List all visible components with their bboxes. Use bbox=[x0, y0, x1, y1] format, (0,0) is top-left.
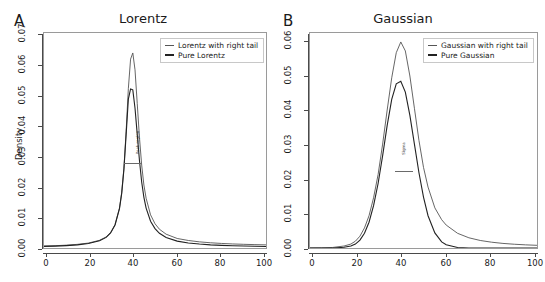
y-tick-a-6 bbox=[38, 65, 42, 66]
x-tick-label-a-1: 20 bbox=[78, 258, 102, 268]
y-tick-b-3 bbox=[304, 145, 308, 146]
peak-annotation-a: Peak region bbox=[135, 131, 140, 154]
y-tick-a-4 bbox=[38, 126, 42, 127]
y-tick-label-b-4: 0.04 bbox=[283, 96, 293, 122]
y-tick-a-0 bbox=[38, 249, 42, 250]
panel-gaussian: B Gaussian 0.00 0.01 0.02 0.03 0.04 0.05… bbox=[273, 0, 545, 282]
legend-line-icon bbox=[428, 45, 437, 46]
curve-gaussian-with-right-tail bbox=[310, 42, 537, 248]
annotation-rule-b bbox=[395, 171, 413, 172]
y-tick-a-5 bbox=[38, 96, 42, 97]
y-tick-label-b-5: 0.05 bbox=[283, 62, 293, 88]
lorentz-curves-svg bbox=[44, 33, 266, 248]
x-axis-line-b bbox=[309, 253, 538, 254]
x-axis-line-a bbox=[43, 253, 267, 254]
y-tick-label-a-3: 0.03 bbox=[17, 143, 27, 169]
legend-label: Pure Lorentz bbox=[178, 52, 225, 60]
legend-label: Lorentz with right tail bbox=[178, 42, 258, 50]
x-tick-b-4 bbox=[490, 253, 491, 257]
x-tick-a-1 bbox=[90, 253, 91, 257]
y-tick-label-b-0: 0.00 bbox=[283, 235, 293, 261]
y-tick-a-3 bbox=[38, 157, 42, 158]
x-tick-label-a-0: 0 bbox=[34, 258, 58, 268]
y-tick-b-5 bbox=[304, 76, 308, 77]
x-tick-a-0 bbox=[46, 253, 47, 257]
legend-item-pure-lorentz: Pure Lorentz bbox=[165, 52, 258, 60]
x-tick-a-5 bbox=[264, 253, 265, 257]
x-tick-a-4 bbox=[220, 253, 221, 257]
y-tick-label-a-4: 0.04 bbox=[17, 112, 27, 138]
x-tick-label-b-0: 0 bbox=[300, 258, 324, 268]
legend-item-gaussian-right-tail: Gaussian with right tail bbox=[428, 42, 528, 50]
legend-label: Gaussian with right tail bbox=[441, 42, 528, 50]
x-tick-a-3 bbox=[177, 253, 178, 257]
x-tick-label-a-3: 60 bbox=[165, 258, 189, 268]
legend-lorentz: Lorentz with right tail Pure Lorentz bbox=[160, 38, 264, 63]
y-tick-b-4 bbox=[304, 110, 308, 111]
x-tick-label-a-4: 80 bbox=[208, 258, 232, 268]
x-tick-b-2 bbox=[401, 253, 402, 257]
y-tick-label-b-2: 0.02 bbox=[283, 166, 293, 192]
gaussian-curves-svg bbox=[310, 33, 537, 248]
curve-lorentz-with-right-tail bbox=[44, 53, 266, 246]
y-tick-label-a-5: 0.05 bbox=[17, 82, 27, 108]
panel-title-lorentz: Lorentz bbox=[58, 11, 228, 26]
x-tick-label-b-4: 80 bbox=[478, 258, 502, 268]
legend-item-pure-gaussian: Pure Gaussian bbox=[428, 52, 528, 60]
x-tick-label-a-2: 40 bbox=[121, 258, 145, 268]
legend-label: Pure Gaussian bbox=[441, 52, 494, 60]
x-tick-b-5 bbox=[535, 253, 536, 257]
panel-lorentz: A Lorentz Density 0.00 0.01 0.02 0.03 0.… bbox=[0, 0, 272, 282]
y-tick-label-a-0: 0.00 bbox=[17, 235, 27, 261]
peak-annotation-b: Sigma bbox=[401, 142, 406, 155]
legend-line-icon bbox=[165, 45, 174, 46]
y-tick-label-b-1: 0.01 bbox=[283, 200, 293, 226]
y-tick-a-2 bbox=[38, 188, 42, 189]
x-tick-label-b-3: 60 bbox=[434, 258, 458, 268]
y-tick-a-7 bbox=[38, 34, 42, 35]
legend-line-icon bbox=[165, 54, 174, 56]
x-tick-b-3 bbox=[446, 253, 447, 257]
x-tick-b-0 bbox=[312, 253, 313, 257]
legend-line-icon bbox=[428, 54, 437, 56]
plot-area-lorentz bbox=[43, 32, 267, 249]
x-tick-label-b-5: 100 bbox=[523, 258, 545, 268]
x-tick-label-b-2: 40 bbox=[389, 258, 413, 268]
annotation-rule-a bbox=[124, 163, 142, 164]
y-tick-b-6 bbox=[304, 41, 308, 42]
y-tick-label-a-1: 0.01 bbox=[17, 204, 27, 230]
figure-container: A Lorentz Density 0.00 0.01 0.02 0.03 0.… bbox=[0, 0, 545, 282]
y-tick-label-a-2: 0.02 bbox=[17, 174, 27, 200]
y-tick-label-b-3: 0.03 bbox=[283, 131, 293, 157]
y-tick-label-a-7: 0.07 bbox=[17, 20, 27, 46]
y-tick-label-b-6: 0.06 bbox=[283, 27, 293, 53]
legend-gaussian: Gaussian with right tail Pure Gaussian bbox=[423, 38, 534, 63]
y-tick-a-1 bbox=[38, 218, 42, 219]
panel-title-gaussian: Gaussian bbox=[318, 11, 488, 26]
y-tick-b-0 bbox=[304, 249, 308, 250]
x-tick-label-b-1: 20 bbox=[345, 258, 369, 268]
x-tick-a-2 bbox=[133, 253, 134, 257]
y-tick-b-2 bbox=[304, 180, 308, 181]
legend-item-lorentz-right-tail: Lorentz with right tail bbox=[165, 42, 258, 50]
y-tick-label-a-6: 0.06 bbox=[17, 51, 27, 77]
y-tick-b-1 bbox=[304, 214, 308, 215]
plot-area-gaussian bbox=[309, 32, 538, 249]
x-tick-b-1 bbox=[357, 253, 358, 257]
